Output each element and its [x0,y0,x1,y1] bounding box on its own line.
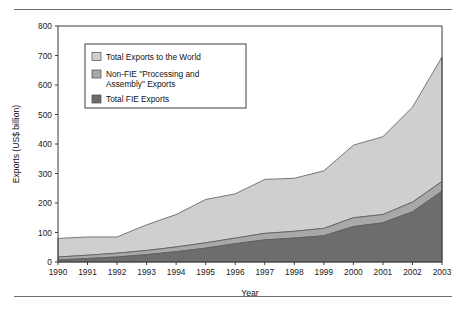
y-tick-label: 700 [38,51,52,61]
x-tick-label: 2003 [433,267,452,277]
y-tick-label: 500 [38,110,52,120]
legend-label-non-fie-processing-line2: Assembly" Exports [106,79,175,89]
y-tick-label: 100 [38,228,52,238]
y-axis-title: Exports (US$ billion) [11,105,21,183]
y-tick-label: 800 [38,21,52,31]
chart-legend: Total Exports to the World Non-FIE "Proc… [85,44,246,108]
x-tick-label: 1998 [285,267,304,277]
legend-label-total-exports-world: Total Exports to the World [106,52,201,62]
legend-swatch-total-fie-exports [92,95,101,103]
x-tick-label: 1992 [108,267,127,277]
x-tick-label: 1997 [255,267,274,277]
x-tick-label: 1994 [167,267,186,277]
legend-swatch-non-fie-processing [92,70,101,78]
y-tick-label: 200 [38,198,52,208]
x-tick-label: 2000 [344,267,363,277]
x-tick-label: 2002 [403,267,422,277]
figure-container: 0100200300400500600700800 19901991199219… [0,0,466,310]
x-tick-label: 1996 [226,267,245,277]
y-tick-label: 400 [38,139,52,149]
x-tick-label: 1995 [196,267,215,277]
stacked-area-chart: 0100200300400500600700800 19901991199219… [0,0,466,310]
y-tick-label: 0 [47,257,52,267]
legend-swatch-total-exports-world [92,53,101,61]
y-axis-ticks: 0100200300400500600700800 [38,21,58,267]
x-tick-label: 1990 [49,267,68,277]
legend-label-total-fie-exports: Total FIE Exports [106,94,169,104]
x-tick-label: 1993 [137,267,156,277]
bottom-divider-rule [14,296,452,297]
legend-label-non-fie-processing-line1: Non-FIE "Processing and [106,69,200,79]
x-tick-label: 2001 [374,267,393,277]
x-tick-label: 1991 [78,267,97,277]
x-axis-ticks: 1990199119921993199419951996199719981999… [49,262,452,277]
x-tick-label: 1999 [315,267,334,277]
top-divider-rule [14,9,452,10]
y-tick-label: 600 [38,80,52,90]
y-tick-label: 300 [38,169,52,179]
